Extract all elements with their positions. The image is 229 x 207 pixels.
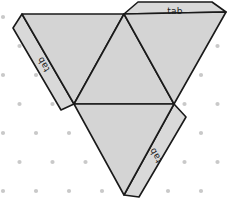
- net-svg: tabtabtab: [0, 0, 229, 207]
- grid-dot: [34, 131, 38, 135]
- grid-dot: [215, 44, 219, 48]
- grid-dot: [83, 160, 87, 164]
- grid-dot: [215, 102, 219, 106]
- grid-dot: [1, 73, 5, 77]
- grid-dot: [199, 131, 203, 135]
- grid-dot: [199, 73, 203, 77]
- grid-dot: [17, 44, 21, 48]
- grid-dot: [17, 102, 21, 106]
- grid-dot: [67, 189, 71, 193]
- net-diagram-canvas: tabtabtab: [0, 0, 229, 207]
- grid-dot: [50, 102, 54, 106]
- grid-dot: [50, 160, 54, 164]
- grid-dot: [1, 189, 5, 193]
- grid-dot: [182, 102, 186, 106]
- grid-dot: [1, 131, 5, 135]
- grid-dot: [67, 131, 71, 135]
- grid-dot: [34, 189, 38, 193]
- grid-dot: [100, 189, 104, 193]
- grid-dot: [199, 189, 203, 193]
- grid-dot: [215, 160, 219, 164]
- grid-dot: [17, 160, 21, 164]
- grid-dot: [1, 15, 5, 19]
- grid-dot: [34, 73, 38, 77]
- tab-top-label: tab: [167, 6, 183, 16]
- grid-dot: [166, 189, 170, 193]
- grid-dot: [182, 160, 186, 164]
